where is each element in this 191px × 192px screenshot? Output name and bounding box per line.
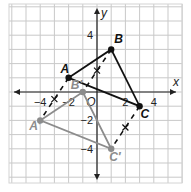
y-tick-label: 4	[87, 29, 93, 41]
x-tick-label: 4	[151, 96, 157, 108]
vertex-label: C	[141, 107, 150, 121]
coordinate-plane: xyO−4−2244−2−4 ABCA′B′C′	[0, 0, 191, 192]
x-tick-label: −4	[34, 96, 47, 108]
vertex-label: B	[114, 32, 123, 46]
vertex-label: A	[60, 62, 70, 76]
x-axis-label: x	[172, 75, 180, 89]
y-tick-label: −4	[80, 143, 93, 155]
vertex-label: B′	[71, 78, 84, 92]
tick-labels: xyO−4−2244−2−4	[34, 6, 180, 155]
axes	[14, 8, 176, 180]
vertex-label: C′	[109, 150, 122, 164]
y-tick-label: −2	[80, 114, 93, 126]
vertex-point	[108, 46, 114, 52]
vertex-label: A′	[28, 119, 42, 133]
x-axis-arrow-right-icon	[170, 89, 176, 95]
y-axis-label: y	[100, 6, 108, 20]
grid-border	[9, 4, 182, 183]
x-axis-arrow-left-icon	[14, 89, 20, 95]
y-axis-arrow-up-icon	[94, 8, 100, 14]
grid-lines	[9, 4, 182, 183]
